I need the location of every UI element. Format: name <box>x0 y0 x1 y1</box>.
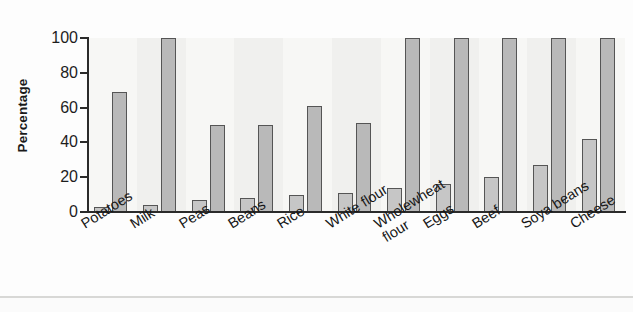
x-axis-tick-labels: PotatoesMilkPeasBeansRiceWhite flourWhol… <box>0 214 633 292</box>
y-tick-label: 100 <box>51 30 78 46</box>
y-axis-line <box>87 37 89 213</box>
y-tick-label: 40 <box>60 134 78 150</box>
page-edge-shade <box>0 298 633 312</box>
y-axis-title-text: Percentage <box>16 78 31 152</box>
y-tick-mark <box>80 211 88 213</box>
chart-screenshot: Percentage 020406080100 PotatoesMilkPeas… <box>0 0 633 312</box>
y-tick-mark <box>80 72 88 74</box>
bar <box>551 38 566 212</box>
plot-area <box>88 38 625 212</box>
y-tick-mark <box>80 37 88 39</box>
y-tick-mark <box>80 176 88 178</box>
bar <box>502 38 517 212</box>
y-axis-tick-labels: 020406080100 <box>36 28 80 224</box>
bar <box>405 38 420 212</box>
bar <box>600 38 615 212</box>
y-tick-label: 20 <box>60 169 78 185</box>
bar <box>454 38 469 212</box>
y-tick-mark <box>80 141 88 143</box>
bar <box>210 125 225 212</box>
bar <box>307 106 322 212</box>
y-tick-mark <box>80 107 88 109</box>
y-axis-title: Percentage <box>8 40 38 190</box>
y-tick-label: 80 <box>60 65 78 81</box>
bar <box>161 38 176 212</box>
y-tick-label: 60 <box>60 100 78 116</box>
